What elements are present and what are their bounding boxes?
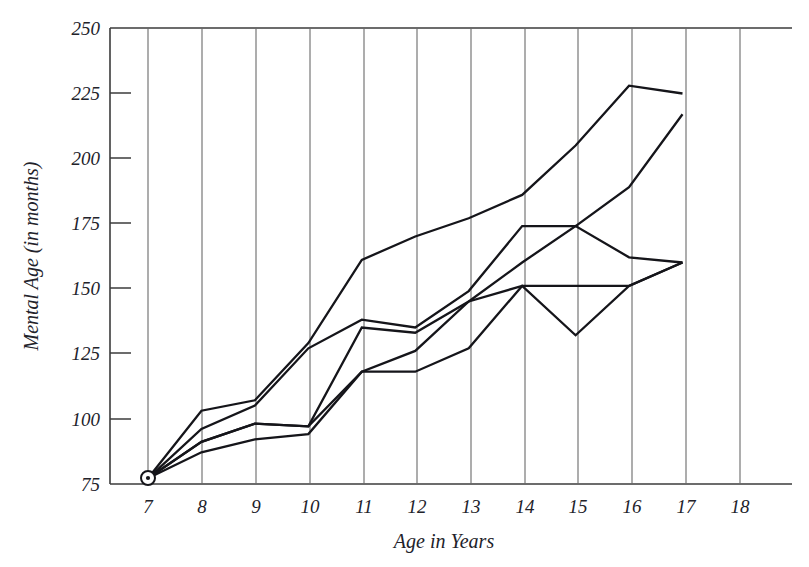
ytick-label-75: 75 [81, 474, 100, 495]
line-chart-canvas: 250 225 200 175 150 125 100 75 7 8 9 10 … [0, 0, 809, 567]
xtick-label-13: 13 [462, 496, 481, 517]
x-axis-tick-labels: 7 8 9 10 11 12 13 14 15 16 17 18 [143, 496, 750, 517]
data-line-series-4 [148, 263, 683, 479]
xtick-label-12: 12 [408, 496, 428, 517]
xtick-label-11: 11 [355, 496, 373, 517]
ytick-label-200: 200 [72, 148, 101, 169]
xtick-label-10: 10 [301, 496, 321, 517]
ytick-label-150: 150 [72, 278, 101, 299]
xtick-label-18: 18 [731, 496, 751, 517]
xtick-label-16: 16 [623, 496, 643, 517]
ytick-label-125: 125 [72, 343, 101, 364]
x-axis-title: Age in Years [392, 530, 495, 553]
xtick-label-15: 15 [569, 496, 588, 517]
xtick-label-17: 17 [677, 496, 698, 517]
xtick-label-8: 8 [197, 496, 207, 517]
y-axis-tick-labels: 250 225 200 175 150 125 100 75 [72, 18, 101, 495]
data-line-series-1 [148, 86, 683, 479]
data-line-series-3 [148, 226, 683, 478]
ytick-label-175: 175 [72, 213, 101, 234]
vertical-gridlines [148, 28, 740, 484]
y-axis-title: Mental Age (in months) [20, 161, 43, 351]
xtick-label-14: 14 [516, 496, 536, 517]
ytick-label-225: 225 [72, 83, 101, 104]
ytick-label-100: 100 [72, 409, 101, 430]
data-series-group [148, 86, 683, 479]
axis-frame [110, 28, 792, 484]
ytick-label-250: 250 [72, 18, 101, 39]
chart-figure: 250 225 200 175 150 125 100 75 7 8 9 10 … [0, 0, 809, 567]
xtick-label-9: 9 [251, 496, 261, 517]
xtick-label-7: 7 [143, 496, 154, 517]
origin-point-marker [141, 471, 155, 485]
y-axis-ticks [110, 93, 131, 419]
data-line-series-2 [148, 114, 683, 478]
